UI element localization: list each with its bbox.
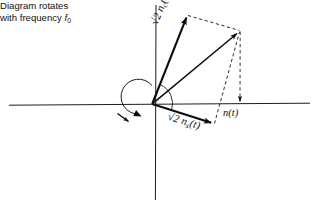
vertical-axis bbox=[155, 5, 156, 200]
rotation-arc bbox=[121, 79, 152, 114]
diagram-canvas bbox=[0, 0, 318, 208]
caption-leader-arrow-icon bbox=[118, 114, 129, 122]
horizontal-axis bbox=[9, 103, 310, 105]
vector-nc bbox=[152, 18, 186, 104]
phasor-diagram-figure: √2 nc(t) √2 ns(t) n(t) Diagram rotates w… bbox=[0, 0, 318, 208]
label-vector-nt: n(t) bbox=[223, 107, 238, 119]
label-nt-suffix: (t) bbox=[228, 107, 238, 118]
construction-line-nc-to-resultant bbox=[188, 16, 239, 31]
rotation-arrowhead-icon bbox=[133, 110, 141, 116]
